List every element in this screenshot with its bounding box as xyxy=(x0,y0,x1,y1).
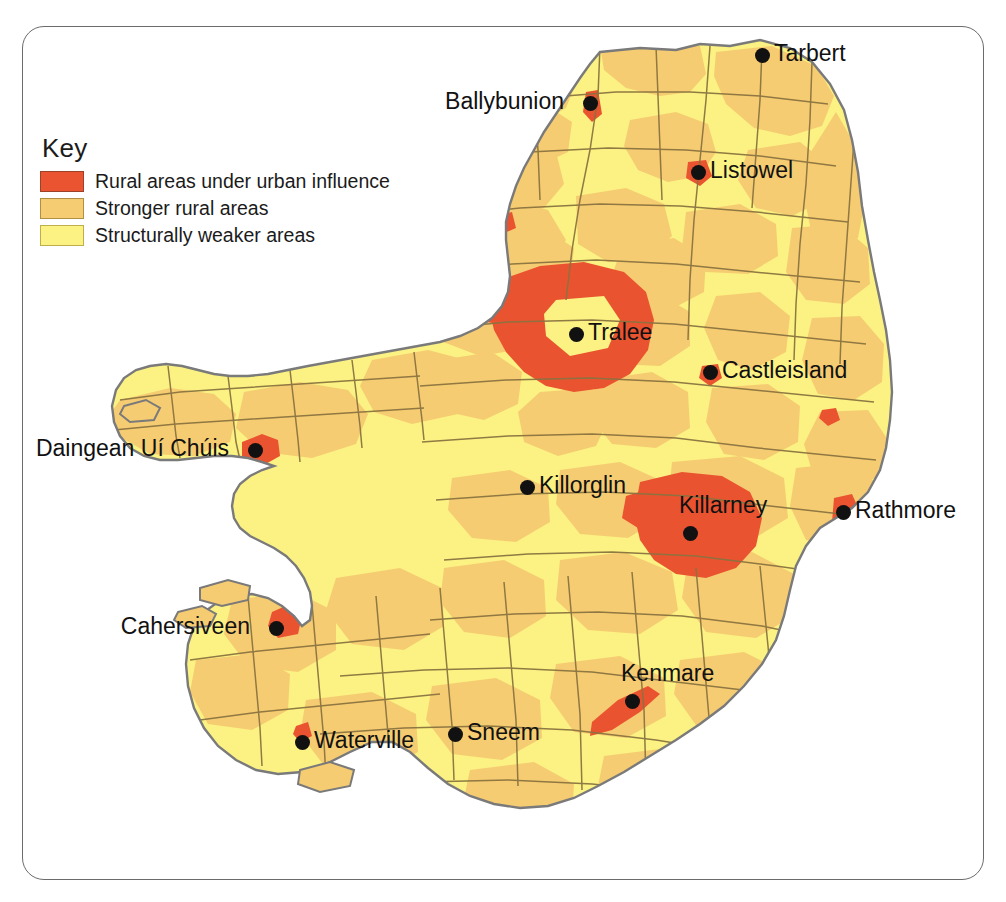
place-label: Tarbert xyxy=(774,46,846,61)
legend-swatch-red xyxy=(40,171,84,192)
place-dot-icon xyxy=(683,526,698,541)
place-dot-icon xyxy=(755,48,770,63)
place-label: Ballybunion xyxy=(445,94,564,109)
place-label: Castleisland xyxy=(722,363,847,378)
place-label: Tralee xyxy=(588,325,652,340)
place-dot-icon xyxy=(691,165,706,180)
place-dot-icon xyxy=(295,735,310,750)
place-dot-icon xyxy=(448,727,463,742)
map-page: Key Rural areas under urban influence St… xyxy=(0,0,1006,902)
legend-label-stronger-rural: Stronger rural areas xyxy=(95,197,268,220)
place-label: Waterville xyxy=(314,733,414,748)
legend-label-structurally-weaker: Structurally weaker areas xyxy=(95,224,315,247)
place-dot-icon xyxy=(569,327,584,342)
legend-swatch-yellow xyxy=(40,225,84,246)
place-dot-icon xyxy=(520,480,535,495)
place-label: Daingean Uí Chúis xyxy=(36,441,229,456)
place-label: Killorglin xyxy=(539,478,626,493)
legend-item-structurally-weaker: Structurally weaker areas xyxy=(40,223,370,247)
legend-title: Key xyxy=(42,135,370,161)
place-label: Cahersiveen xyxy=(121,619,250,634)
place-dot-icon xyxy=(703,365,718,380)
place-label: Kenmare xyxy=(621,666,714,681)
place-label: Killarney xyxy=(679,498,767,513)
place-label: Sneem xyxy=(467,725,540,740)
place-dot-icon xyxy=(269,621,284,636)
map-legend: Key Rural areas under urban influence St… xyxy=(40,135,370,250)
place-dot-icon xyxy=(836,505,851,520)
legend-swatch-tan xyxy=(40,198,84,219)
place-dot-icon xyxy=(248,443,263,458)
place-dot-icon xyxy=(625,694,640,709)
legend-item-urban-influence: Rural areas under urban influence xyxy=(40,169,370,193)
place-dot-icon xyxy=(583,96,598,111)
place-label: Listowel xyxy=(710,163,793,178)
place-label: Rathmore xyxy=(855,503,956,518)
legend-item-stronger-rural: Stronger rural areas xyxy=(40,196,370,220)
legend-label-urban-influence: Rural areas under urban influence xyxy=(95,170,390,193)
